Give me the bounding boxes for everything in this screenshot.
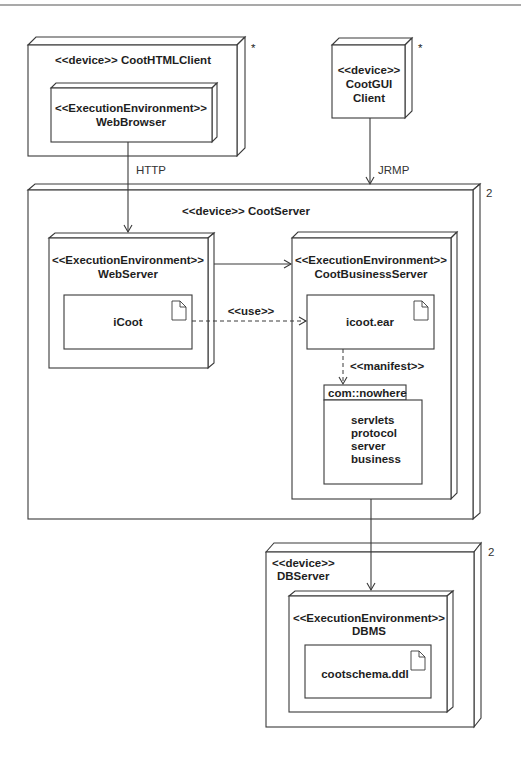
multiplicity-label: 2 xyxy=(486,187,492,199)
artifact-icoot[interactable]: iCoot xyxy=(64,295,192,349)
exec-env-web-server[interactable]: <<ExecutionEnvironment>> WebServer iCoot xyxy=(49,233,214,368)
use-label: <<use>> xyxy=(228,305,275,317)
stereotype-label: <<device>> xyxy=(338,64,401,76)
artifact-cootschema-ddl[interactable]: cootschema.ddl xyxy=(305,645,431,698)
stereotype-label: <<ExecutionEnvironment>> xyxy=(55,102,207,114)
connection-jrmp: JRMP xyxy=(370,118,410,184)
artifact-name: iCoot xyxy=(113,316,143,328)
deployment-diagram: <<device>> CootHTMLClient * <<ExecutionE… xyxy=(0,0,521,757)
artifact-name: icoot.ear xyxy=(346,316,394,328)
stereotype-label: <<device>> xyxy=(272,557,335,569)
artifact-name: cootschema.ddl xyxy=(321,668,409,680)
stereotype-label: <<ExecutionEnvironment>> xyxy=(293,612,445,624)
exec-env-name: WebServer xyxy=(98,268,158,280)
node-coot-gui-client[interactable]: <<device>> CootGUI Client * xyxy=(332,38,423,118)
node-title: <<device>> CootServer xyxy=(182,205,310,217)
node-name: DBServer xyxy=(277,570,330,582)
node-title: <<device>> CootHTMLClient xyxy=(55,54,211,66)
package-com-nowhere[interactable]: com::nowhere servlets protocol server bu… xyxy=(324,385,422,484)
multiplicity-label: * xyxy=(418,42,423,54)
node-db-server[interactable]: <<device>> DBServer 2 <<ExecutionEnviron… xyxy=(266,543,494,727)
package-name: com::nowhere xyxy=(328,387,407,399)
http-label: HTTP xyxy=(136,164,166,176)
package-item: server xyxy=(351,440,386,452)
exec-env-dbms[interactable]: <<ExecutionEnvironment>> DBMS cootschema… xyxy=(289,591,453,712)
node-coot-html-client[interactable]: <<device>> CootHTMLClient * <<ExecutionE… xyxy=(28,37,256,156)
package-item: protocol xyxy=(351,427,397,439)
package-item: business xyxy=(351,453,401,465)
stereotype-label: <<ExecutionEnvironment>> xyxy=(52,254,204,266)
node-name-line1: CootGUI xyxy=(346,78,393,90)
jrmp-label: JRMP xyxy=(378,164,410,176)
exec-env-name: DBMS xyxy=(352,625,386,637)
node-name-line2: Client xyxy=(353,92,385,104)
artifact-icoot-ear[interactable]: icoot.ear xyxy=(307,295,434,349)
package-item: servlets xyxy=(351,414,394,426)
manifest-label: <<manifest>> xyxy=(350,360,424,372)
exec-env-name: WebBrowser xyxy=(96,116,167,128)
exec-env-name: CootBusinessServer xyxy=(314,268,428,280)
stereotype-label: <<ExecutionEnvironment>> xyxy=(295,254,447,266)
node-coot-server[interactable]: <<device>> CootServer 2 <<ExecutionEnvir… xyxy=(28,184,492,519)
multiplicity-label: 2 xyxy=(488,546,494,558)
exec-env-web-browser[interactable]: <<ExecutionEnvironment>> WebBrowser xyxy=(51,83,217,142)
multiplicity-label: * xyxy=(251,42,256,54)
